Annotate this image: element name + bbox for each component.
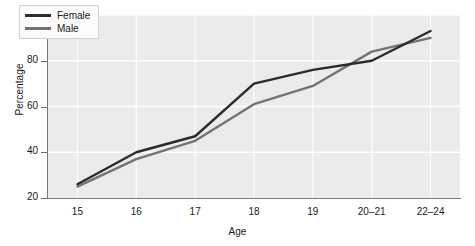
x-tick-label: 16 (106, 206, 166, 217)
x-tick-label: 17 (165, 206, 225, 217)
y-tick-mark (41, 61, 47, 62)
y-tick-label: 40 (8, 145, 38, 156)
x-tick-label: 18 (224, 206, 284, 217)
legend-swatch-female (25, 14, 51, 17)
y-tick-mark (41, 198, 47, 199)
x-tick-label: 15 (47, 206, 107, 217)
x-tick-label: 19 (283, 206, 343, 217)
x-tick-label: 22–24 (401, 206, 461, 217)
legend-label-male: Male (57, 22, 79, 35)
x-axis-title: Age (0, 226, 475, 237)
legend-item-female: Female (25, 9, 90, 22)
line-chart: 20406080100 151617181920–2122–24 Percent… (0, 0, 475, 246)
y-tick-label: 20 (8, 191, 38, 202)
x-tick-label: 20–21 (342, 206, 402, 217)
legend-item-male: Male (25, 22, 90, 35)
x-axis-line (47, 198, 461, 199)
legend-label-female: Female (57, 9, 90, 22)
legend: Female Male (19, 5, 99, 39)
y-axis-title: Percentage (14, 40, 25, 140)
y-tick-mark (41, 107, 47, 108)
legend-swatch-male (25, 27, 51, 30)
y-axis-line (47, 14, 48, 199)
y-tick-mark (41, 152, 47, 153)
